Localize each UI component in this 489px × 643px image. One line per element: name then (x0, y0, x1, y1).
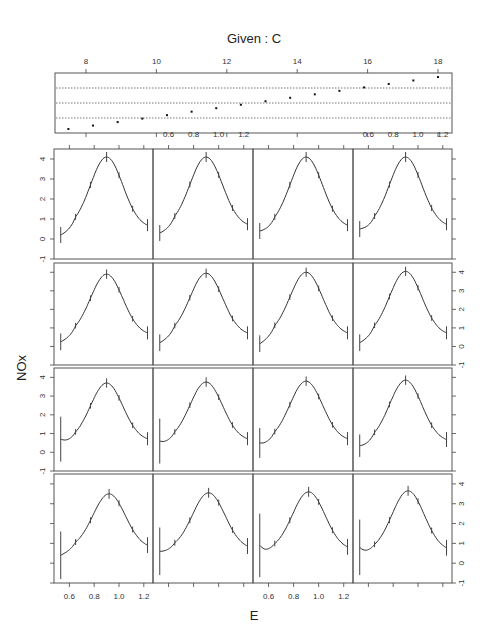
panel: 0.60.81.01.2 (50, 474, 153, 601)
panel (153, 474, 253, 587)
y-tick-label: 4 (457, 269, 466, 274)
loess-curve (260, 492, 348, 549)
given-tick-label: 14 (293, 57, 302, 66)
loess-curve (160, 382, 248, 441)
y-tick-label: 1 (457, 325, 466, 330)
x-tick-label: 1.2 (437, 130, 449, 139)
panel (50, 263, 153, 365)
given-tick-label: 8 (84, 57, 89, 66)
panel-frame (353, 368, 452, 471)
given-title: Given : C (227, 31, 281, 46)
y-tick-label: 1 (38, 216, 47, 221)
x-tick-label: 0.6 (163, 130, 175, 139)
y-tick-label: 2 (457, 521, 466, 526)
y-tick-label: 4 (38, 156, 47, 161)
x-axis-label: E (250, 608, 259, 623)
given-point (215, 107, 217, 109)
x-tick-label: 1.2 (338, 592, 350, 601)
panel-frame (54, 263, 153, 365)
panel-frame (253, 474, 353, 583)
panel: -101234 (38, 145, 153, 263)
loess-curve (360, 271, 447, 342)
panel-frame (153, 263, 253, 365)
y-tick-label: 0 (457, 344, 466, 349)
loess-curve (61, 383, 148, 440)
x-tick-label: 0.6 (263, 592, 275, 601)
panel-frame (153, 149, 253, 259)
y-tick-label: -1 (38, 255, 47, 263)
panel (253, 145, 353, 259)
y-tick-label: 2 (38, 196, 47, 201)
given-point (338, 90, 340, 92)
y-tick-label: 0 (38, 449, 47, 454)
y-tick-label: 4 (38, 375, 47, 380)
given-point (117, 121, 119, 123)
panel: -101234 (353, 474, 466, 587)
y-tick-label: -1 (457, 579, 466, 587)
given-point (141, 118, 143, 120)
given-point (314, 93, 316, 95)
y-tick-label: 3 (38, 393, 47, 398)
y-tick-label: 3 (457, 501, 466, 506)
y-tick-label: 1 (457, 541, 466, 546)
panel-frame (353, 149, 452, 259)
panel (353, 368, 456, 471)
x-tick-label: 1.0 (313, 592, 325, 601)
y-tick-label: -1 (38, 467, 47, 475)
loess-curve (61, 157, 148, 235)
given-point (289, 97, 291, 99)
x-tick-label: 0.6 (363, 130, 375, 139)
loess-curve (260, 157, 348, 231)
coplot-chart: Given : C 81012141618 -1012340.60.81.01.… (0, 0, 489, 643)
given-tick-label: 16 (363, 57, 372, 66)
x-tick-label: 0.8 (388, 130, 400, 139)
panel (153, 263, 253, 365)
loess-curve (61, 494, 148, 556)
y-axis-label: NOx (14, 355, 29, 382)
loess-curve (360, 491, 447, 550)
x-tick-label: 1.2 (138, 592, 150, 601)
panel-frame (253, 368, 353, 471)
given-point (412, 79, 414, 81)
given-point (363, 86, 365, 88)
panel (253, 368, 353, 471)
x-tick-label: 0.8 (188, 130, 200, 139)
loess-curve (160, 273, 248, 343)
loess-curve (160, 493, 248, 551)
panel-frame (253, 149, 353, 259)
given-point (388, 83, 390, 85)
given-panel: 81012141618 (55, 57, 452, 137)
panel: 0.60.81.01.2 (253, 474, 353, 601)
panel (153, 368, 253, 471)
given-point (166, 114, 168, 116)
given-point (92, 125, 94, 127)
given-tick-label: 18 (434, 57, 443, 66)
y-tick-label: 4 (457, 481, 466, 486)
panel-frame (153, 474, 253, 583)
y-tick-label: 2 (457, 307, 466, 312)
panel-frame (54, 474, 153, 583)
loess-curve (260, 381, 348, 443)
y-tick-label: 1 (38, 431, 47, 436)
panel-frame (54, 149, 153, 259)
x-tick-label: 0.8 (288, 592, 300, 601)
loess-curve (360, 157, 447, 229)
x-tick-label: 0.6 (64, 592, 76, 601)
x-tick-label: 0.8 (89, 592, 101, 601)
loess-curve (160, 157, 248, 233)
given-tick-label: 12 (222, 57, 231, 66)
panel: 0.60.81.01.2 (153, 130, 253, 259)
loess-curve (360, 380, 447, 446)
panel-frame (353, 263, 452, 365)
panel: -101234 (38, 368, 153, 475)
y-tick-label: 3 (457, 288, 466, 293)
given-point (240, 104, 242, 106)
given-point (67, 128, 69, 130)
loess-curve (61, 274, 148, 342)
panel (253, 263, 353, 365)
y-tick-label: 3 (38, 176, 47, 181)
loess-curve (260, 272, 348, 343)
x-tick-label: 1.2 (238, 130, 250, 139)
y-tick-label: -1 (457, 361, 466, 369)
panel-frame (253, 263, 353, 365)
